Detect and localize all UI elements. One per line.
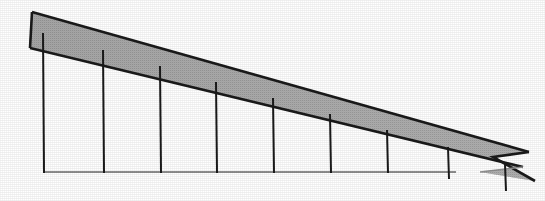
tick-line-8 (448, 147, 449, 179)
tick-line-3 (160, 66, 161, 173)
tick-line-1 (43, 33, 44, 173)
tick-line-5 (273, 98, 274, 173)
tick-line-2 (103, 50, 104, 173)
band-diagram-svg (0, 0, 545, 201)
tick-line-6 (330, 114, 331, 173)
figure-canvas (0, 0, 545, 201)
tick-line-7 (387, 130, 388, 173)
tick-line-9 (505, 164, 506, 191)
tick-line-4 (216, 82, 217, 173)
